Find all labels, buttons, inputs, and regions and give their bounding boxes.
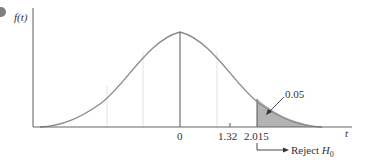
tick-label-2.015: 2.015 [244, 130, 269, 142]
area-arrow [269, 97, 284, 112]
tick-label-1.32: 1.32 [218, 130, 237, 142]
guide-lines [107, 52, 217, 127]
reject-label-main: Reject [291, 144, 322, 156]
density-curve [40, 32, 322, 127]
bullet-icon [0, 7, 6, 17]
reject-label-sub: 0 [330, 150, 334, 159]
y-axis-label: f(t) [14, 11, 28, 24]
area-label: 0.05 [285, 88, 305, 100]
reject-label: Reject H0 [291, 144, 334, 159]
tick-label-0: 0 [177, 130, 183, 142]
x-axis-label: t [345, 127, 349, 139]
reject-arrow-head [283, 148, 289, 153]
reject-arrow [257, 143, 284, 150]
t-distribution-chart: f(t) t 0 1.32 2.015 0.05 Reject H0 [0, 0, 366, 162]
